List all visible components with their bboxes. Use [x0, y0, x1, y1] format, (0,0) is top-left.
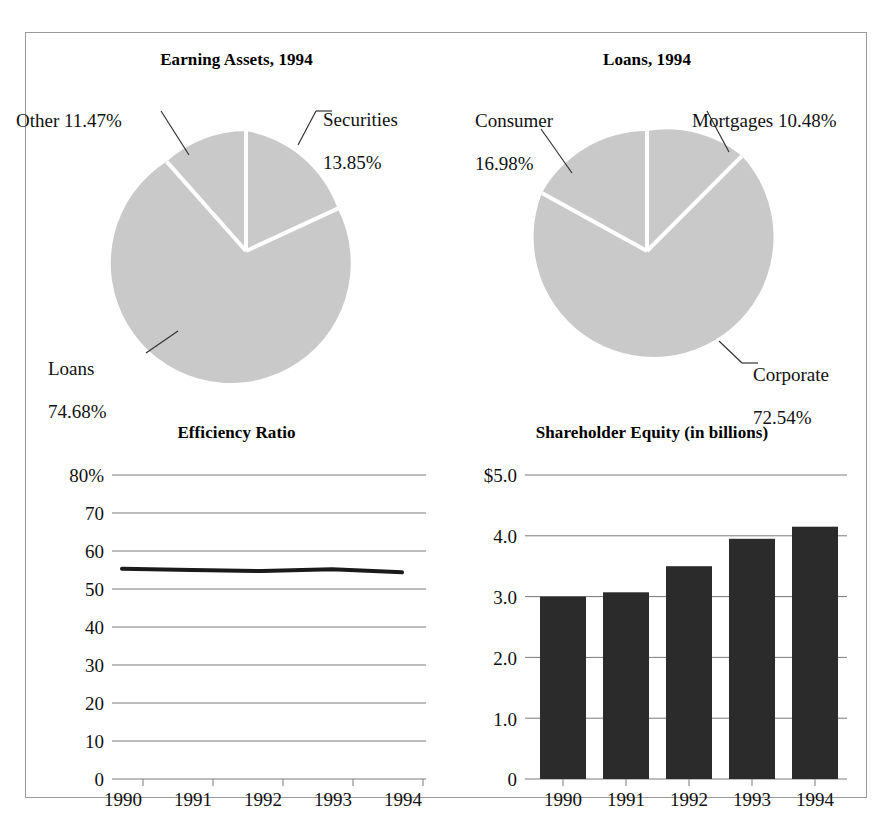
xtick-eq-1990: 1990 — [528, 789, 598, 811]
pie-label-mortgages: Mortgages 10.48% — [692, 89, 893, 132]
x-axis-ticks — [563, 779, 815, 786]
bars — [540, 527, 838, 779]
chart-efficiency-ratio: Efficiency Ratio 80% 70 60 50 40 30 20 1… — [26, 403, 447, 799]
efficiency-ratio-svg — [26, 403, 447, 799]
bar-1991 — [603, 592, 649, 779]
chart-loans-pie: Loans, 1994 — [447, 33, 868, 403]
bar-1993 — [729, 539, 775, 779]
xtick-eff-1990: 1990 — [88, 789, 158, 811]
xtick-eff-1992: 1992 — [228, 789, 298, 811]
pie-label-consumer: Consumer 16.98% — [475, 89, 615, 174]
gridlines — [112, 475, 426, 779]
shareholder-equity-svg — [447, 403, 868, 799]
xtick-eq-1994: 1994 — [780, 789, 850, 811]
x-axis-ticks — [143, 779, 423, 786]
xtick-eff-1993: 1993 — [298, 789, 368, 811]
xtick-eq-1993: 1993 — [717, 789, 787, 811]
xtick-eq-1992: 1992 — [654, 789, 724, 811]
efficiency-ratio-line — [122, 569, 402, 573]
figure-frame: Earning Assets, 1994 — [25, 32, 867, 798]
bar-1994 — [792, 527, 838, 779]
pie-label-securities: Securities 13.85% — [323, 88, 453, 173]
pie-label-other: Other 11.47% — [16, 89, 166, 132]
bar-1990 — [540, 597, 586, 779]
chart-earning-assets-pie: Earning Assets, 1994 — [26, 33, 447, 403]
xtick-eff-1994: 1994 — [368, 789, 438, 811]
bar-1992 — [666, 566, 712, 779]
xtick-eff-1991: 1991 — [158, 789, 228, 811]
chart-shareholder-equity: Shareholder Equity (in billions) $5.0 4.… — [447, 403, 868, 799]
xtick-eq-1991: 1991 — [591, 789, 661, 811]
